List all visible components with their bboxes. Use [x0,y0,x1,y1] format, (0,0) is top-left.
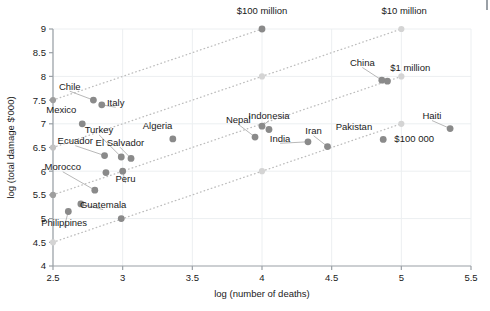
data-point [447,125,454,132]
reference-point [398,26,404,32]
data-point [118,154,125,161]
data-point [128,155,135,162]
y-tick-label: 7.5 [33,95,46,106]
reference-point [50,239,56,245]
y-tick-label: 5.5 [33,189,46,200]
x-tick-label: 2.5 [46,272,59,283]
y-tick-label: 9 [41,23,46,34]
scatter-chart: 44.555.566.577.588.592.533.544.555.5 Chi… [0,0,490,311]
data-point-label: Nepal [226,114,251,125]
data-point-label: Mexico [46,104,76,115]
data-point-label: Indonesia [248,110,290,121]
data-point-label: Peru [115,173,135,184]
reference-point [398,73,404,79]
data-point [169,136,176,143]
y-tick-label: 6.5 [33,142,46,153]
reference-point [398,121,404,127]
data-point-label: Algeria [143,120,173,131]
data-point [101,152,108,159]
data-point-label: Philippines [41,217,87,228]
reference-point [259,168,265,174]
data-point-label: Guatemala [80,199,127,210]
annotation-label: $1 million [390,62,430,73]
data-point-label: Haiti [422,110,441,121]
data-point-label: India [270,133,291,144]
data-point [98,101,105,108]
data-point [118,215,125,222]
data-point-label: Iran [305,125,321,136]
x-axis-title: log (number of deaths) [214,288,310,299]
data-point-label: Ecuador [58,135,93,146]
annotation-label: $100 000 [394,133,434,144]
data-point [103,169,110,176]
corner-artifact [486,0,488,10]
y-tick-label: 7 [41,118,46,129]
y-tick-label: 4.5 [33,237,46,248]
data-point [384,78,391,85]
x-tick-label: 4 [259,272,264,283]
y-tick-label: 4 [41,260,46,271]
data-point-label: Morocco [45,161,81,172]
data-point [90,97,97,104]
x-tick-label: 4.5 [325,272,338,283]
annotation-label: $100 million [237,5,288,16]
x-tick-label: 5 [399,272,404,283]
y-tick-label: 8 [41,71,46,82]
data-point [324,143,331,150]
annotation-label: $10 million [381,5,426,16]
reference-point [259,73,265,79]
reference-line [53,29,262,100]
leader-line [63,172,95,190]
data-point-label: Turkey [85,124,114,135]
reference-point [50,97,56,103]
data-point [305,138,312,145]
y-axis-title: log (total damage $'000) [5,96,16,198]
x-tick-label: 3.5 [186,272,199,283]
data-point-label: China [350,57,376,68]
leader-line [362,67,382,80]
data-point [91,187,98,194]
data-point [252,134,259,141]
data-point-label: Pakistan [336,121,372,132]
plot-svg: 44.555.566.577.588.592.533.544.555.5 Chi… [0,0,490,311]
data-point-label: Italy [107,97,125,108]
data-point [65,208,72,215]
reference-point [50,144,56,150]
reference-point [50,192,56,198]
leader-line [70,91,94,100]
data-point [259,26,266,33]
y-tick-label: 8.5 [33,47,46,58]
data-point [380,136,387,143]
x-tick-label: 3 [120,272,125,283]
data-point-label: El Salvador [96,137,145,148]
data-point [259,123,266,130]
data-point-label: Chile [59,81,81,92]
x-tick-label: 5.5 [464,272,477,283]
